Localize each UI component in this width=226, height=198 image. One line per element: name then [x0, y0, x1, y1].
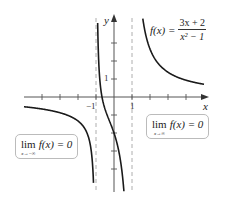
x-tick-label-neg1: −1 — [86, 102, 96, 111]
limit-left-operator: lim x→−∞ — [21, 139, 36, 156]
y-axis-arrow-icon — [111, 14, 117, 22]
formula-denominator: x² − 1 — [180, 30, 204, 42]
y-axis-label: y — [104, 15, 109, 26]
limit-left-sub: x→−∞ — [21, 151, 35, 156]
x-axis-label: x — [203, 101, 208, 112]
curve-middle-branch — [98, 23, 124, 191]
y-tick-label-1: 1 — [104, 74, 109, 83]
limit-right-box: lim x→∞ f(x) = 0 — [146, 114, 209, 139]
x-tick-label-1: 1 — [130, 102, 135, 111]
formula-fraction: 3x + 2 x² − 1 — [178, 17, 206, 42]
formula-numerator: 3x + 2 — [178, 17, 206, 30]
limit-right-expr: f(x) = 0 — [170, 118, 204, 130]
limit-right-lim: lim — [152, 119, 167, 130]
limit-right-operator: lim x→∞ — [152, 119, 167, 136]
limit-left-lim: lim — [21, 139, 36, 150]
limit-left-box: lim x→−∞ f(x) = 0 — [15, 134, 78, 159]
limit-left-expr: f(x) = 0 — [39, 138, 73, 150]
function-formula: f(x) = 3x + 2 x² − 1 — [150, 17, 206, 42]
limit-right-sub: x→∞ — [154, 131, 165, 136]
formula-lhs: f(x) = — [150, 24, 175, 36]
